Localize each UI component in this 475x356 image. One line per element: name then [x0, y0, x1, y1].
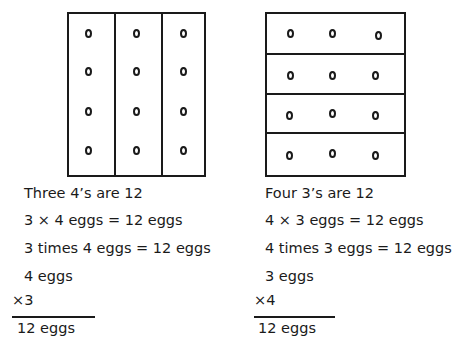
- left-multiplier: ×3: [12, 293, 33, 308]
- row-divider: [267, 93, 404, 95]
- egg-icon: [329, 149, 336, 158]
- egg-icon: [287, 71, 294, 80]
- right-multiplicand: 3 eggs: [265, 269, 314, 284]
- egg-icon: [133, 146, 140, 155]
- left-sum-rule: [12, 316, 95, 318]
- egg-icon: [133, 29, 140, 38]
- egg-icon: [85, 67, 92, 76]
- row-divider: [267, 53, 404, 55]
- egg-icon: [180, 107, 187, 116]
- egg-icon: [133, 107, 140, 116]
- left-times-sentence: 3 times 4 eggs = 12 eggs: [24, 241, 211, 256]
- egg-carton-rows: [265, 12, 406, 177]
- egg-icon: [85, 29, 92, 38]
- egg-icon: [133, 67, 140, 76]
- egg-icon: [180, 146, 187, 155]
- left-statement: Three 4’s are 12: [24, 186, 143, 201]
- column-divider: [114, 14, 116, 175]
- egg-icon: [286, 151, 293, 160]
- right-multiplier: ×4: [254, 293, 275, 308]
- egg-icon: [287, 29, 294, 38]
- egg-icon: [329, 109, 336, 118]
- left-result: 12 eggs: [17, 321, 75, 336]
- right-equation: 4 × 3 eggs = 12 eggs: [265, 213, 424, 228]
- egg-carton-columns: [67, 12, 206, 177]
- egg-icon: [372, 111, 379, 120]
- column-divider: [161, 14, 163, 175]
- right-sum-rule: [254, 316, 335, 318]
- egg-icon: [372, 71, 379, 80]
- egg-icon: [372, 151, 379, 160]
- egg-icon: [375, 31, 382, 40]
- right-times-sentence: 4 times 3 eggs = 12 eggs: [265, 241, 452, 256]
- left-multiplicand: 4 eggs: [24, 269, 73, 284]
- right-result: 12 eggs: [258, 321, 316, 336]
- egg-icon: [286, 111, 293, 120]
- egg-icon: [180, 29, 187, 38]
- egg-icon: [85, 107, 92, 116]
- egg-icon: [329, 71, 336, 80]
- egg-icon: [329, 29, 336, 38]
- egg-icon: [85, 146, 92, 155]
- row-divider: [267, 132, 404, 134]
- right-statement: Four 3’s are 12: [265, 186, 374, 201]
- left-equation: 3 × 4 eggs = 12 eggs: [24, 213, 183, 228]
- egg-icon: [180, 67, 187, 76]
